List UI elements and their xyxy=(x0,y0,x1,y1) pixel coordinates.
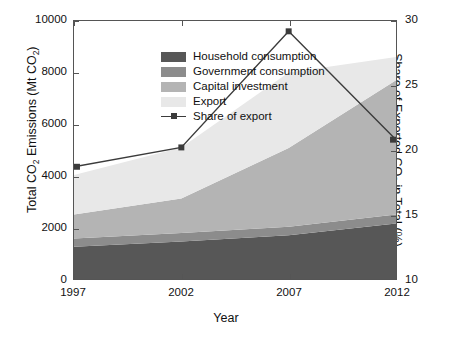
x-axis-tick-label: 1997 xyxy=(43,286,103,298)
legend: Household consumptionGovernment consumpt… xyxy=(161,50,325,123)
y2-axis-tick-label: 15 xyxy=(405,208,445,220)
legend-line-marker-icon xyxy=(161,112,186,122)
y-axis-tick xyxy=(74,125,79,126)
legend-item-label: Export xyxy=(193,95,226,108)
y2-axis-tick xyxy=(391,86,396,87)
y2-axis-tick-label: 10 xyxy=(405,273,445,285)
legend-swatch-icon xyxy=(161,82,186,92)
x-axis-tick-top xyxy=(290,21,291,26)
legend-item-label: Household consumption xyxy=(193,50,316,63)
y2-axis-tick xyxy=(391,216,396,217)
x-axis-tick xyxy=(290,274,291,279)
legend-swatch-icon xyxy=(161,52,186,62)
legend-swatch-icon xyxy=(161,97,186,107)
x-axis-tick xyxy=(182,274,183,279)
x-axis-tick-label: 2012 xyxy=(367,286,427,298)
y2-axis-tick-label: 20 xyxy=(405,143,445,155)
y-axis-tick-label: 4000 xyxy=(19,169,67,181)
legend-item: Capital investment xyxy=(161,80,325,93)
y-axis-tick-label: 2000 xyxy=(19,221,67,233)
y-axis-title-sub-2: 2 xyxy=(31,51,41,56)
legend-item: Export xyxy=(161,95,325,108)
data-point-marker xyxy=(286,28,292,34)
y-axis-tick-label: 0 xyxy=(19,273,67,285)
legend-swatch-icon xyxy=(161,67,186,77)
x-axis-tick-top xyxy=(74,21,75,26)
plot-area: Household consumptionGovernment consumpt… xyxy=(73,20,397,280)
figure: Total CO2 Emissions (Mt CO2) Share of Ex… xyxy=(0,0,452,337)
x-axis-tick xyxy=(74,274,75,279)
legend-item-label: Government consumption xyxy=(193,65,325,78)
y2-axis-tick xyxy=(391,151,396,152)
y-axis-tick xyxy=(74,73,79,74)
legend-item: Share of export xyxy=(161,110,325,123)
legend-item-label: Capital investment xyxy=(193,80,288,93)
x-axis-tick-label: 2002 xyxy=(151,286,211,298)
y-axis-title-part-3: ) xyxy=(25,46,39,50)
data-point-marker xyxy=(390,137,396,143)
legend-item-label: Share of export xyxy=(193,110,272,123)
y-axis-tick-label: 8000 xyxy=(19,65,67,77)
data-point-marker xyxy=(74,164,80,170)
y-axis-tick xyxy=(74,229,79,230)
legend-item: Household consumption xyxy=(161,50,325,63)
y-axis-title-sub-1: 2 xyxy=(31,160,41,165)
y-axis-tick-label: 10000 xyxy=(19,13,67,25)
legend-item: Government consumption xyxy=(161,65,325,78)
y2-axis-tick-label: 30 xyxy=(405,13,445,25)
y-axis-tick-label: 6000 xyxy=(19,117,67,129)
x-axis-title: Year xyxy=(0,311,452,325)
y2-axis-tick-label: 25 xyxy=(405,78,445,90)
data-point-marker xyxy=(178,144,184,150)
x-axis-tick-top xyxy=(182,21,183,26)
y2-axis-tick xyxy=(391,21,396,22)
y-axis-tick xyxy=(74,177,79,178)
x-axis-tick-label: 2007 xyxy=(259,286,319,298)
